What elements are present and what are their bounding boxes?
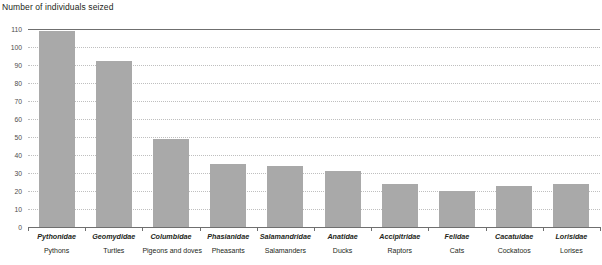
- bar-slot: [153, 29, 189, 227]
- category-family-name: Lorisidae: [543, 231, 600, 242]
- x-axis-category-label: PhasianidaePheasants: [200, 231, 257, 256]
- bar-slot: [96, 29, 132, 227]
- bar[interactable]: [267, 166, 303, 227]
- bar[interactable]: [325, 171, 361, 227]
- bar-slot: [39, 29, 75, 227]
- bar-slot: [382, 29, 418, 227]
- category-family-name: Phasianidae: [200, 231, 257, 242]
- y-axis-tick-label: 30: [2, 170, 22, 177]
- bar-slot: [439, 29, 475, 227]
- category-common-name: Cats: [428, 245, 485, 256]
- bar[interactable]: [210, 164, 246, 227]
- x-axis-category-label: PythonidaePythons: [28, 231, 85, 256]
- x-axis-category-label: AnatidaeDucks: [314, 231, 371, 256]
- bar[interactable]: [153, 139, 189, 227]
- x-axis-category-label: CacatuidaeCockatoos: [486, 231, 543, 256]
- category-family-name: Columbidae: [142, 231, 199, 242]
- y-axis-tick-label: 110: [2, 26, 22, 33]
- category-family-name: Salamandridae: [257, 231, 314, 242]
- x-axis-category-label: LorisidaeLorises: [543, 231, 600, 256]
- y-axis-tick-label: 50: [2, 134, 22, 141]
- category-family-name: Geomydidae: [85, 231, 142, 242]
- chart-title: Number of individuals seized: [2, 2, 113, 13]
- bar-chart: Number of individuals seized 11010090807…: [0, 0, 602, 265]
- x-axis-category-label: FelidaeCats: [428, 231, 485, 256]
- category-common-name: Lorises: [543, 245, 600, 256]
- y-axis-tick-label: 40: [2, 152, 22, 159]
- category-family-name: Accipitridae: [371, 231, 428, 242]
- bar-series: [28, 29, 600, 227]
- bar[interactable]: [439, 191, 475, 227]
- bar-slot: [267, 29, 303, 227]
- category-common-name: Pheasants: [200, 245, 257, 256]
- category-family-name: Felidae: [428, 231, 485, 242]
- bar[interactable]: [382, 184, 418, 227]
- bar-slot: [210, 29, 246, 227]
- y-axis-tick-label: 100: [2, 44, 22, 51]
- category-family-name: Cacatuidae: [486, 231, 543, 242]
- bar[interactable]: [96, 61, 132, 227]
- category-common-name: Raptors: [371, 245, 428, 256]
- x-axis-category-label: ColumbidaePigeons and doves: [142, 231, 199, 256]
- bar-slot: [553, 29, 589, 227]
- y-axis-tick-label: 90: [2, 62, 22, 69]
- y-axis-tick-label: 80: [2, 80, 22, 87]
- x-axis-tick: [600, 227, 601, 231]
- category-family-name: Pythonidae: [28, 231, 85, 242]
- bar-slot: [496, 29, 532, 227]
- bar-slot: [325, 29, 361, 227]
- y-axis-tick-label: 70: [2, 98, 22, 105]
- category-common-name: Pythons: [28, 245, 85, 256]
- x-axis-labels: PythonidaePythonsGeomydidaeTurtlesColumb…: [28, 231, 600, 263]
- category-common-name: Salamanders: [257, 245, 314, 256]
- y-axis-tick-label: 0: [2, 224, 22, 231]
- category-family-name: Anatidae: [314, 231, 371, 242]
- y-axis-tick-label: 20: [2, 188, 22, 195]
- bar[interactable]: [39, 31, 75, 227]
- plot-area: 1101009080706050403020100: [28, 29, 600, 227]
- category-common-name: Pigeons and doves: [142, 245, 199, 256]
- category-common-name: Ducks: [314, 245, 371, 256]
- x-axis-category-label: AccipitridaeRaptors: [371, 231, 428, 256]
- x-axis-category-label: SalamandridaeSalamanders: [257, 231, 314, 256]
- y-axis-tick-label: 10: [2, 206, 22, 213]
- y-axis-tick-label: 60: [2, 116, 22, 123]
- bar[interactable]: [496, 186, 532, 227]
- category-common-name: Turtles: [85, 245, 142, 256]
- category-common-name: Cockatoos: [486, 245, 543, 256]
- bar[interactable]: [553, 184, 589, 227]
- x-axis-category-label: GeomydidaeTurtles: [85, 231, 142, 256]
